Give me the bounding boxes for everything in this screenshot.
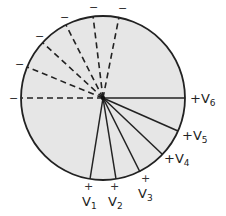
center-point xyxy=(101,96,105,100)
plus-sign: + xyxy=(110,180,119,193)
minus-sign: − xyxy=(9,92,18,105)
minus-sign: − xyxy=(118,2,127,15)
label-v1: V1 xyxy=(82,194,97,211)
label-v5: +V5 xyxy=(182,128,208,145)
voltage-circle-diagram: − − − − − − + V1 + V2 + V3 +V4 +V5 +V6 xyxy=(0,0,226,216)
plus-sign: + xyxy=(84,180,93,193)
label-v4: +V4 xyxy=(164,151,190,168)
label-v2: V2 xyxy=(108,194,123,211)
minus-sign: − xyxy=(60,11,69,24)
minus-sign: − xyxy=(35,30,44,43)
minus-sign: − xyxy=(89,1,98,14)
label-v3: V3 xyxy=(138,186,153,203)
minus-sign: − xyxy=(15,58,24,71)
plus-sign: + xyxy=(141,172,150,185)
label-v6: +V6 xyxy=(190,91,216,108)
